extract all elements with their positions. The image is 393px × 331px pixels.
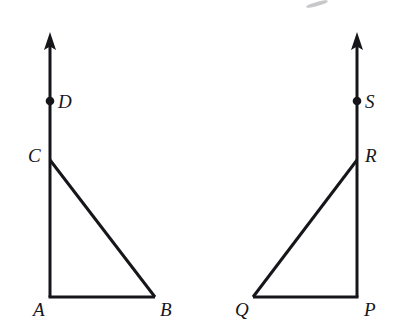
- point-S-dot: [353, 97, 362, 106]
- geometry-drawing: [0, 0, 393, 331]
- label-D: D: [58, 92, 72, 111]
- figure-canvas: D C A B S R Q P: [0, 0, 393, 331]
- label-Q: Q: [235, 300, 249, 319]
- segment-RQ: [253, 160, 357, 297]
- label-R: R: [365, 146, 377, 165]
- label-A: A: [33, 300, 45, 319]
- segment-CB: [50, 160, 155, 297]
- label-P: P: [364, 300, 376, 319]
- label-S: S: [365, 92, 375, 111]
- label-C: C: [28, 146, 41, 165]
- label-B: B: [160, 300, 172, 319]
- point-D-dot: [46, 97, 55, 106]
